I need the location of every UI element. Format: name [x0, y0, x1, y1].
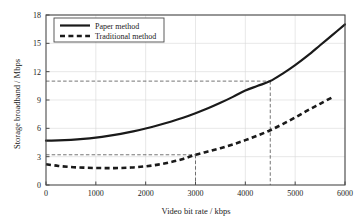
x-tick-label: 3000 [188, 189, 204, 198]
chart-legend: Paper methodTraditional method [54, 18, 164, 42]
y-tick-label: 9 [37, 96, 41, 105]
y-tick-label: 15 [33, 39, 41, 48]
x-tick-label: 5000 [287, 189, 303, 198]
x-tick-label: 6000 [337, 189, 353, 198]
x-tick-label: 2000 [138, 189, 154, 198]
y-tick-label: 3 [37, 153, 41, 162]
y-tick-label: 18 [33, 11, 41, 20]
legend-label-traditional-method: Traditional method [95, 32, 156, 41]
legend-label-paper-method: Paper method [95, 22, 139, 31]
x-axis-title: Video bit rate / kbps [162, 206, 231, 216]
x-tick-label: 1000 [88, 189, 104, 198]
y-tick-label: 6 [37, 124, 41, 133]
x-tick-label: 0 [44, 189, 48, 198]
x-tick-label: 4000 [237, 189, 253, 198]
chart-figure: 03691215180100020003000400050006000 Pape… [0, 0, 357, 224]
y-axis-title: Storage broadband / Mbps [12, 59, 22, 149]
y-tick-label: 0 [37, 181, 41, 190]
y-tick-label: 12 [33, 68, 41, 77]
